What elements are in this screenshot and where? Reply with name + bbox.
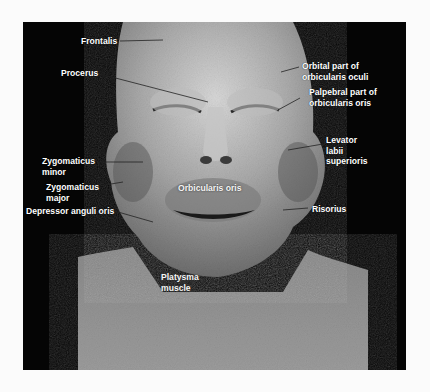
label-zygomaticus-major-line2: major (46, 193, 99, 204)
label-levator-labii-superioris: Levator labii superioris (326, 135, 368, 167)
label-levator-line2: labii (326, 146, 368, 157)
label-depressor-anguli-oris: Depressor anguli oris (26, 206, 114, 217)
label-zygomaticus-major-line1: Zygomaticus (46, 182, 99, 193)
label-platysma-muscle: Platysma muscle (161, 272, 199, 293)
label-platysma-line2: muscle (161, 283, 199, 294)
label-orbital-part-line2: orbicularis oculi (302, 72, 368, 83)
anatomy-figure: Frontalis Procerus Orbital part of orbic… (23, 22, 406, 370)
label-levator-line1: Levator (326, 135, 368, 146)
label-procerus: Procerus (61, 68, 98, 79)
label-levator-line3: superioris (326, 156, 368, 167)
label-palpebral-part-line2: orbicularis oris (309, 98, 377, 109)
label-orbicularis-oris: Orbicularis oris (178, 183, 242, 194)
label-zygomaticus-major: Zygomaticus major (46, 182, 99, 203)
label-frontalis: Frontalis (81, 36, 117, 47)
label-palpebral-part-line1: Palpebral part of (309, 87, 377, 98)
label-zygomaticus-minor: Zygomaticus minor (42, 156, 95, 177)
label-zygomaticus-minor-line2: minor (42, 167, 95, 178)
label-zygomaticus-minor-line1: Zygomaticus (42, 156, 95, 167)
label-risorius: Risorius (312, 204, 346, 215)
label-orbital-part: Orbital part of orbicularis oculi (302, 61, 368, 82)
label-orbital-part-line1: Orbital part of (302, 61, 368, 72)
label-palpebral-part: Palpebral part of orbicularis oris (309, 87, 377, 108)
label-platysma-line1: Platysma (161, 272, 199, 283)
